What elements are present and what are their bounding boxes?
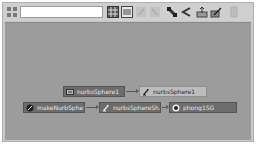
graph-input-button[interactable]	[135, 6, 147, 18]
edit-node-button[interactable]	[210, 6, 222, 18]
clear-graph-button[interactable]	[228, 6, 240, 18]
toolbar	[3, 3, 253, 21]
graph-node-nurbsSphere1-transform[interactable]: nurbsSphere1_	[63, 86, 125, 97]
graph-node-nurbsSphere1-shape[interactable]: nurbsSphere1	[139, 86, 207, 97]
node-label: nurbsSphere1_	[77, 88, 122, 95]
connections-icon	[166, 6, 178, 18]
graph-node-phong1SG[interactable]: phong1SG	[169, 102, 237, 113]
connection-edge[interactable]	[126, 91, 138, 92]
connection-edge[interactable]	[162, 107, 168, 108]
input-output-icon	[180, 6, 192, 18]
clear-icon	[228, 6, 240, 18]
nurbs-shape-icon	[142, 88, 150, 96]
node-label: nurbsSphereSh...	[113, 104, 160, 111]
make-nurbs-icon	[26, 104, 34, 112]
show-connections-button[interactable]	[166, 6, 178, 18]
connection-edge[interactable]	[86, 107, 98, 108]
graph-output-icon	[149, 6, 161, 18]
node-label: makeNurbSphe...	[37, 104, 84, 111]
grid-view-button[interactable]	[107, 6, 119, 18]
search-input[interactable]	[20, 6, 103, 18]
rearrange-icon	[196, 6, 208, 18]
edit-icon	[210, 6, 222, 18]
menu-grid-icon[interactable]	[7, 7, 17, 17]
grid-icon	[107, 6, 119, 18]
list-icon	[121, 6, 133, 18]
nurbs-shape-icon	[102, 104, 110, 112]
node-label: phong1SG	[183, 104, 214, 111]
rearrange-graph-button[interactable]	[196, 6, 208, 18]
shading-group-icon	[172, 104, 180, 112]
hypergraph-window: nurbsSphere1_ nurbsSphere1 makeNurbSphe.…	[2, 2, 254, 142]
graph-output-button[interactable]	[149, 6, 161, 18]
graph-input-icon	[135, 6, 147, 18]
transform-icon	[66, 88, 74, 96]
graph-node-nurbsSphereShape[interactable]: nurbsSphereSh...	[99, 102, 161, 113]
list-view-button[interactable]	[121, 6, 133, 18]
graph-node-makeNurbSphere[interactable]: makeNurbSphe...	[23, 102, 85, 113]
node-label: nurbsSphere1	[153, 88, 195, 95]
graph-canvas[interactable]: nurbsSphere1_ nurbsSphere1 makeNurbSphe.…	[5, 22, 251, 140]
input-output-button[interactable]	[180, 6, 192, 18]
